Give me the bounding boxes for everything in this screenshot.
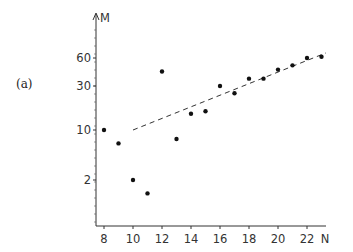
data-points <box>102 54 324 195</box>
data-point <box>131 178 135 182</box>
x-tick-label: 10 <box>126 232 141 246</box>
data-point <box>160 69 164 73</box>
data-point <box>145 191 149 195</box>
y-axis-label: M <box>100 11 110 25</box>
data-point <box>247 76 251 80</box>
x-tick-label: 14 <box>184 232 199 246</box>
y-tick-label: 60 <box>76 51 91 65</box>
x-tick-label: 20 <box>271 232 286 246</box>
data-point <box>319 54 323 58</box>
fit-line <box>133 53 326 130</box>
dashed-fit-line <box>133 53 326 130</box>
x-tick-label: 16 <box>213 232 228 246</box>
data-point <box>189 112 193 116</box>
y-tick-label: 10 <box>76 123 91 137</box>
x-tick-label: 8 <box>100 232 107 246</box>
x-axis-label: N <box>321 232 330 246</box>
data-point <box>290 63 294 67</box>
data-point <box>305 56 309 60</box>
data-point <box>102 128 106 132</box>
y-tick-label: 30 <box>76 79 91 93</box>
x-tick-label: 12 <box>155 232 170 246</box>
y-tick-label: 2 <box>84 173 91 187</box>
x-tick-label: 18 <box>242 232 257 246</box>
data-point <box>116 141 120 145</box>
data-point <box>174 137 178 141</box>
data-point <box>218 84 222 88</box>
data-point <box>232 91 236 95</box>
scatter-chart: M2103060810121416182022N <box>0 0 353 252</box>
data-point <box>276 67 280 71</box>
data-point <box>261 76 265 80</box>
axes: M2103060810121416182022N <box>76 11 329 246</box>
data-point <box>203 109 207 113</box>
x-tick-label: 22 <box>300 232 315 246</box>
